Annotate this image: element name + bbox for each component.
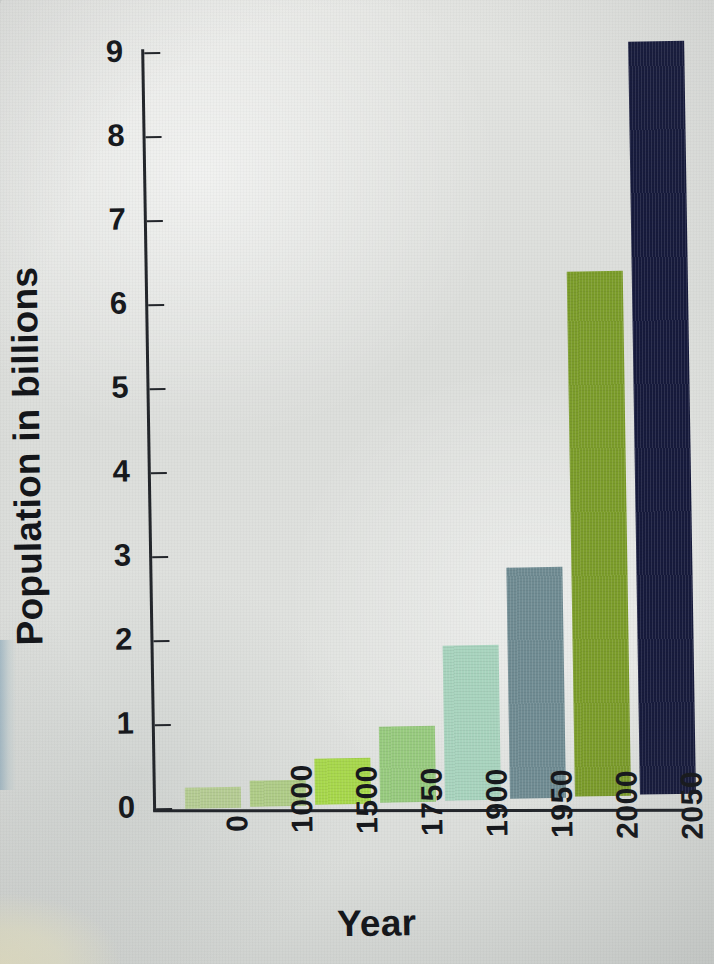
photo-vignette: [0, 0, 714, 964]
